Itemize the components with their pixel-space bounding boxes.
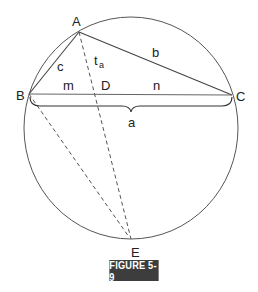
figure-caption: FIGURE 5-9 — [109, 260, 158, 281]
brace-a — [30, 97, 232, 112]
label-n: n — [153, 78, 160, 93]
label-C: C — [236, 89, 245, 104]
label-t-subscript: a — [99, 60, 104, 70]
label-t: t — [94, 53, 98, 68]
label-B: B — [16, 88, 25, 103]
geometry-diagram: A B C D E a b c m n t a — [0, 0, 258, 292]
label-m: m — [63, 78, 74, 93]
label-c: c — [57, 59, 64, 74]
bisector-AE — [79, 32, 131, 239]
side-a-BC — [29, 94, 232, 95]
label-D: D — [101, 78, 110, 93]
label-A: A — [72, 14, 81, 29]
label-a: a — [128, 115, 136, 130]
dashed-BE — [29, 94, 129, 237]
label-b: b — [152, 45, 159, 60]
